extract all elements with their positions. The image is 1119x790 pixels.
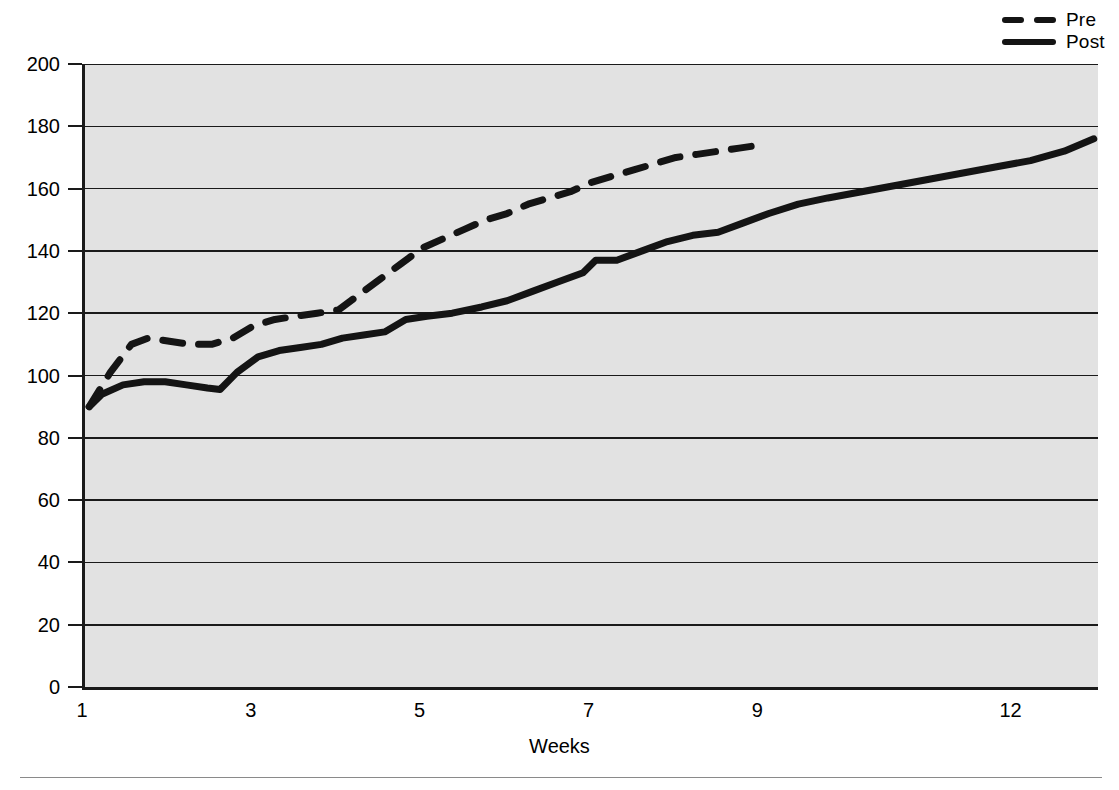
x-axis-title: Weeks [0,736,1119,756]
y-tick-label: 100 [0,366,60,386]
y-tick-mark [68,188,82,190]
legend-swatch-dashed-icon [1000,13,1058,25]
chart-legend: Pre Post [1000,8,1112,56]
y-tick-label: 120 [0,303,60,323]
y-tick-mark [68,125,82,127]
series-line-pre [89,145,760,407]
legend-item-pre: Pre [1000,8,1096,30]
x-tick-label: 7 [583,700,594,720]
y-tick-label: 20 [0,615,60,635]
y-tick-mark [68,499,82,501]
footer-divider [20,777,1102,778]
legend-label-post: Post [1066,32,1105,51]
y-tick-label: 80 [0,428,60,448]
y-tick-label: 40 [0,552,60,572]
legend-label-pre: Pre [1066,10,1096,29]
y-tick-label: 160 [0,179,60,199]
x-tick-label: 1 [76,700,87,720]
legend-swatch-solid-icon [1000,35,1058,47]
plot-canvas [85,64,1098,687]
y-tick-mark [68,561,82,563]
y-tick-mark [68,437,82,439]
x-tick-label: 9 [752,700,763,720]
plot-area [82,64,1098,690]
y-tick-label: 180 [0,116,60,136]
y-tick-label: 140 [0,241,60,261]
y-tick-mark [68,624,82,626]
x-tick-label: 12 [999,700,1021,720]
y-tick-mark [68,63,82,65]
legend-item-post: Post [1000,30,1105,52]
y-tick-label: 0 [0,677,60,697]
y-tick-mark [68,686,82,688]
chart-figure: Pre Post 020406080100120140160180200 135… [0,0,1119,790]
y-tick-mark [68,250,82,252]
y-tick-label: 200 [0,54,60,74]
y-tick-mark [68,375,82,377]
x-tick-label: 3 [245,700,256,720]
x-tick-label: 5 [414,700,425,720]
y-tick-mark [68,312,82,314]
y-tick-label: 60 [0,490,60,510]
